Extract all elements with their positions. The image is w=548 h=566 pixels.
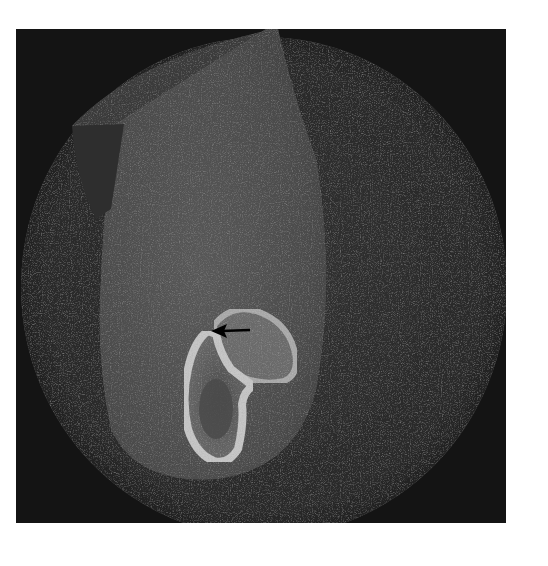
page: Circular field of view containing a soft…	[0, 0, 548, 566]
ct-scan-graphic	[16, 29, 506, 523]
ct-scan-image: Circular field of view containing a soft…	[16, 29, 506, 523]
bone-cavity	[199, 379, 233, 439]
